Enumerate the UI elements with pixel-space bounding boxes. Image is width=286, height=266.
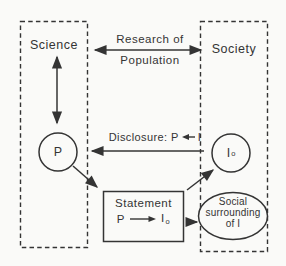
research-label-line2: Population (95, 54, 205, 66)
i-circle-text: I (227, 146, 230, 160)
disclosure-label-suffix: I (198, 131, 201, 143)
social-label-line1: Social (199, 196, 267, 207)
statement-to-subscript: o (166, 217, 171, 226)
statement-from: P (117, 213, 125, 225)
statement-formula: P Io (104, 212, 183, 226)
science-label: Science (20, 38, 88, 52)
statement-to: Io (161, 212, 170, 226)
i-circle-label: Io (212, 134, 250, 172)
statement-to-text: I (161, 212, 165, 224)
statement-title: Statement (104, 197, 183, 209)
i-circle-subscript: o (231, 149, 235, 158)
disclosure-label-prefix: Disclosure: P (109, 131, 179, 143)
research-label-line1: Research of (95, 33, 205, 45)
society-label: Society (200, 42, 268, 56)
diagram-canvas: Science Society Research of Population D… (0, 0, 286, 266)
left-arrow-icon (182, 133, 195, 141)
p-circle-label: P (39, 133, 77, 171)
disclosure-label: Disclosure: P I (98, 131, 212, 143)
social-label-line3: of I (199, 218, 267, 229)
p-circle-text: P (54, 145, 62, 159)
social-ellipse-label: Social surrounding of I (199, 196, 267, 229)
social-label-line2: surrounding (199, 207, 267, 218)
right-arrow-icon (130, 215, 156, 223)
